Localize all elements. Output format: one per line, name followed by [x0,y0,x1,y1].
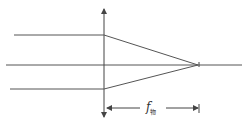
focal-length-subscript: 物 [150,108,156,115]
lens-ray-diagram [0,0,252,126]
refracted-ray-top [104,35,198,65]
focal-length-label: f物 [145,99,157,119]
refracted-ray-bottom [104,65,198,89]
